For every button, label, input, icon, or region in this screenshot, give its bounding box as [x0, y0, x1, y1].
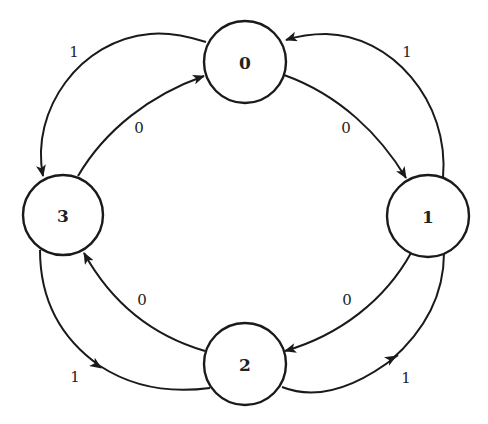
state-label-0: 0 [239, 53, 251, 73]
state-diagram: 0 1 0 1 0 1 0 1 0 1 2 3 [0, 0, 488, 424]
state-node-3: 3 [23, 175, 103, 255]
diagram-svg: 0 1 0 1 0 1 0 1 0 1 2 3 [0, 0, 488, 424]
state-node-1: 1 [387, 175, 469, 257]
edge-0-to-3 [41, 34, 206, 176]
edge-3-to-2-arrow [85, 357, 101, 368]
state-node-2: 2 [204, 323, 286, 405]
state-label-1: 1 [422, 207, 434, 227]
edge-label-0-to-1: 0 [341, 119, 351, 137]
edge-label-3-to-0: 0 [134, 119, 144, 137]
edge-label-3-to-2: 1 [70, 368, 80, 386]
edge-3-to-2 [40, 250, 210, 390]
edge-label-0-to-3: 1 [69, 43, 79, 61]
edge-2-to-1-tail [390, 253, 444, 361]
edge-label-1-to-0: 1 [402, 43, 412, 61]
edge-1-to-0 [286, 34, 444, 178]
edge-label-1-to-2: 0 [342, 291, 352, 309]
state-node-0: 0 [204, 21, 286, 103]
state-label-2: 2 [239, 355, 251, 375]
edge-2-to-1 [282, 355, 398, 393]
edge-label-2-to-3: 0 [137, 291, 147, 309]
state-label-3: 3 [57, 206, 69, 226]
edge-label-2-to-1: 1 [401, 369, 411, 387]
